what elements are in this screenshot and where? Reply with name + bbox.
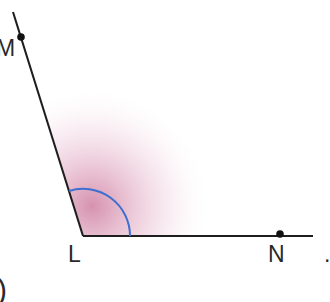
fragment-dot: . <box>324 241 330 267</box>
angle-diagram: M L N ) . <box>0 0 330 302</box>
label-M: M <box>0 35 15 61</box>
label-N: N <box>268 241 285 267</box>
label-L: L <box>68 241 81 267</box>
fragment-paren: ) <box>0 273 7 302</box>
point-N <box>276 230 284 238</box>
point-M <box>17 33 25 41</box>
